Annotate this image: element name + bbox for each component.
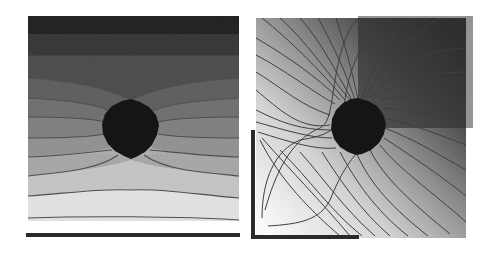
left-panel bbox=[26, 16, 240, 237]
left-bottom-electrode bbox=[26, 233, 240, 237]
right-panel bbox=[251, 16, 473, 239]
figure: Two side-by-side grayscale contour plots… bbox=[0, 0, 497, 258]
